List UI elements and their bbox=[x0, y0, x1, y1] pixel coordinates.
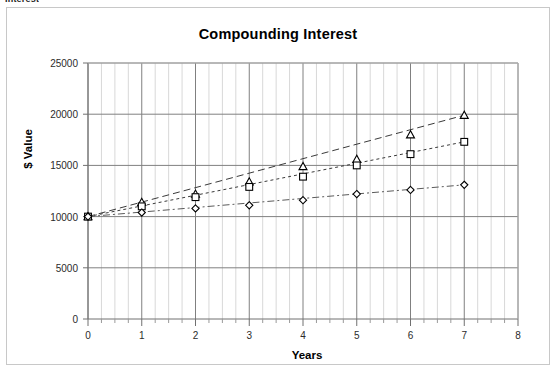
chart-frame: Compounding Interest $ Value Years 01234… bbox=[6, 7, 550, 365]
x-tick-label: 5 bbox=[354, 330, 360, 341]
data-point-triangle bbox=[299, 162, 307, 169]
x-tick-label: 2 bbox=[193, 330, 199, 341]
data-point-diamond bbox=[407, 186, 414, 193]
data-point-square bbox=[246, 184, 253, 191]
x-axis-ticks bbox=[88, 319, 518, 326]
data-point-square bbox=[300, 173, 307, 180]
clipped-header-text: Interest bbox=[5, 0, 39, 2]
y-tick-label: 20000 bbox=[50, 109, 78, 120]
data-point-square bbox=[353, 162, 360, 169]
y-axis-tick-labels: 0500010000150002000025000 bbox=[50, 58, 78, 325]
x-axis-tick-labels: 012345678 bbox=[85, 330, 521, 341]
x-tick-label: 6 bbox=[408, 330, 414, 341]
x-tick-label: 4 bbox=[300, 330, 306, 341]
x-tick-label: 7 bbox=[461, 330, 467, 341]
data-point-triangle bbox=[407, 131, 415, 138]
chart-plot-area: 012345678 0500010000150002000025000 bbox=[7, 8, 551, 366]
data-point-diamond bbox=[192, 205, 199, 212]
y-tick-label: 15000 bbox=[50, 160, 78, 171]
major-vertical-gridlines bbox=[88, 63, 518, 319]
y-tick-label: 10000 bbox=[50, 212, 78, 223]
x-tick-label: 3 bbox=[246, 330, 252, 341]
data-point-square bbox=[407, 151, 414, 158]
x-tick-label: 0 bbox=[85, 330, 91, 341]
y-tick-label: 0 bbox=[72, 314, 78, 325]
data-point-square bbox=[192, 194, 199, 201]
data-point-triangle bbox=[353, 155, 361, 162]
data-point-square bbox=[461, 138, 468, 145]
data-point-diamond bbox=[353, 190, 360, 197]
y-tick-label: 5000 bbox=[56, 263, 79, 274]
y-tick-label: 25000 bbox=[50, 58, 78, 69]
x-tick-label: 1 bbox=[139, 330, 145, 341]
y-axis-ticks bbox=[83, 63, 88, 319]
data-point-diamond bbox=[461, 181, 468, 188]
x-tick-label: 8 bbox=[515, 330, 521, 341]
data-point-diamond bbox=[246, 202, 253, 209]
data-point-diamond bbox=[299, 197, 306, 204]
data-point-triangle bbox=[460, 111, 468, 118]
